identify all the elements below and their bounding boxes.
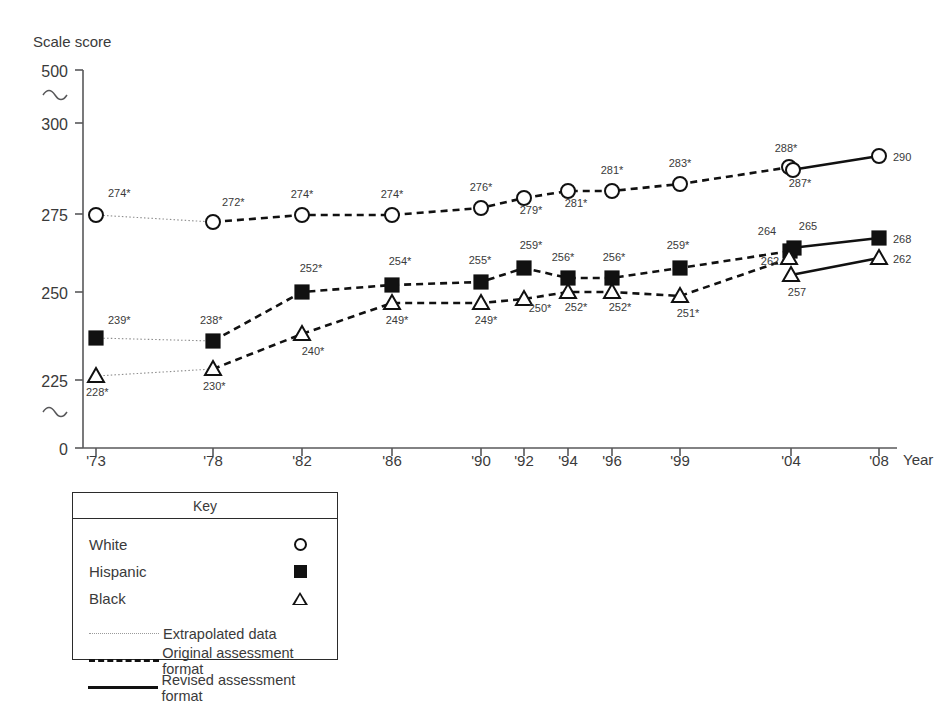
- label-white-1973: 274*: [108, 187, 131, 199]
- x-tick-1996: '96: [602, 452, 622, 469]
- label-white-1986: 274*: [381, 188, 404, 200]
- label-black-1996: 252*: [609, 301, 632, 313]
- label-white-1978: 272*: [222, 196, 245, 208]
- label-hispanic-2004-original: 264: [758, 225, 776, 237]
- label-hispanic-1982: 252*: [300, 262, 323, 274]
- label-white-2008: 290: [893, 151, 911, 163]
- y-axis-title: Scale score: [33, 33, 111, 50]
- legend-label-extrapolated: Extrapolated data: [163, 626, 277, 642]
- legend-label-revised: Revised assessment format: [162, 672, 337, 704]
- legend-item-revised: Revised assessment format: [73, 674, 337, 701]
- label-hispanic-1973: 239*: [108, 314, 131, 326]
- label-black-1990: 249*: [475, 314, 498, 326]
- y-tick-300: 300: [41, 116, 68, 133]
- label-black-1994: 252*: [565, 301, 588, 313]
- open-triangle-icon: [285, 592, 315, 605]
- solid-line-icon: [85, 686, 162, 689]
- label-white-1992: 279*: [520, 204, 543, 216]
- label-hispanic-1999: 259*: [667, 239, 690, 251]
- label-black-1982: 240*: [302, 345, 325, 357]
- x-tick-1986: '86: [382, 452, 402, 469]
- y-tick-500: 500: [41, 63, 68, 80]
- label-black-2004-original: 262: [761, 255, 779, 267]
- point-labels-white: 274* 272* 274* 274* 276* 279* 281* 281* …: [108, 142, 911, 216]
- y-tick-225: 225: [41, 373, 68, 390]
- label-hispanic-1986: 254*: [389, 255, 412, 267]
- legend-item-original: Original assessment format: [73, 647, 337, 674]
- x-tick-1990: '90: [471, 452, 491, 469]
- label-hispanic-1990: 255*: [469, 254, 492, 266]
- label-white-1990: 276*: [470, 181, 493, 193]
- legend-label-black: Black: [89, 590, 285, 607]
- label-black-1992: 250*: [529, 302, 552, 314]
- dotted-line-icon: [85, 633, 163, 634]
- label-hispanic-1994: 256*: [552, 251, 575, 263]
- label-black-1978: 230*: [203, 380, 226, 392]
- label-black-1973: 228*: [86, 386, 109, 398]
- label-white-2004-original: 288*: [775, 142, 798, 154]
- label-black-2008: 262: [893, 253, 911, 265]
- label-white-1996: 281*: [601, 164, 624, 176]
- x-tick-1973: '73: [86, 452, 106, 469]
- x-tick-1999: '99: [670, 452, 690, 469]
- x-tick-1978: '78: [203, 452, 223, 469]
- label-black-2004-revised: 257: [788, 286, 806, 298]
- y-tick-250: 250: [41, 285, 68, 302]
- legend-label-white: White: [89, 536, 285, 553]
- y-tick-0: 0: [59, 441, 68, 458]
- x-tick-2008: '08: [869, 452, 889, 469]
- filled-square-icon: [285, 565, 315, 578]
- x-tick-2004: '04: [781, 452, 801, 469]
- label-white-2004-revised: 287*: [789, 177, 812, 189]
- legend-item-white: White: [73, 531, 337, 558]
- x-axis-title: Year: [903, 451, 933, 468]
- label-hispanic-1996: 256*: [603, 251, 626, 263]
- label-hispanic-2008: 268: [893, 233, 911, 245]
- legend-label-hispanic: Hispanic: [89, 563, 285, 580]
- label-hispanic-1992: 259*: [520, 239, 543, 251]
- x-tick-1994: '94: [558, 452, 578, 469]
- x-tick-1982: '82: [292, 452, 312, 469]
- chart-legend: Key White Hispanic Black Extrapolated da…: [72, 492, 338, 660]
- dashed-line-icon: [85, 659, 162, 662]
- label-hispanic-2004-revised: 265: [799, 220, 817, 232]
- markers-hispanic: [89, 231, 886, 348]
- label-white-1982: 274*: [291, 188, 314, 200]
- legend-item-black: Black: [73, 585, 337, 612]
- x-tick-1992: '92: [514, 452, 534, 469]
- legend-body: White Hispanic Black Extrapolated data O…: [73, 519, 337, 701]
- legend-item-extrapolated: Extrapolated data: [73, 620, 337, 647]
- open-circle-icon: [285, 538, 315, 551]
- label-black-1999: 251*: [677, 307, 700, 319]
- label-hispanic-1978: 238*: [200, 314, 223, 326]
- label-white-1999: 283*: [669, 157, 692, 169]
- legend-item-hispanic: Hispanic: [73, 558, 337, 585]
- label-black-1986: 249*: [386, 314, 409, 326]
- y-tick-275: 275: [41, 207, 68, 224]
- label-white-1994: 281*: [565, 197, 588, 209]
- legend-title: Key: [73, 493, 337, 519]
